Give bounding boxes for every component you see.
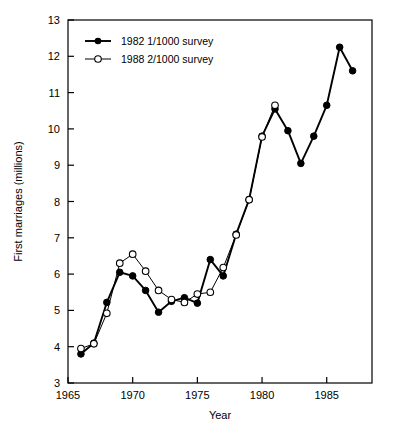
y-tick-label: 11 xyxy=(49,87,60,99)
data-point-open xyxy=(78,345,85,352)
data-point-filled xyxy=(298,160,305,167)
data-point-open xyxy=(246,196,253,203)
data-point-open xyxy=(272,102,279,109)
plot-frame xyxy=(68,20,372,383)
y-tick-label: 6 xyxy=(54,268,60,280)
data-point-filled xyxy=(155,309,162,316)
y-tick-label: 3 xyxy=(54,377,60,389)
data-point-filled xyxy=(142,287,149,294)
legend-label-1: 1982 1/1000 survey xyxy=(121,35,214,47)
x-axis-title: Year xyxy=(209,409,232,421)
data-point-filled xyxy=(207,256,214,263)
data-point-open xyxy=(116,260,123,267)
data-point-open xyxy=(259,134,266,141)
data-point-open xyxy=(220,264,227,271)
x-tick-label: 1985 xyxy=(314,389,338,401)
series-line-1 xyxy=(81,47,353,354)
y-tick-label: 5 xyxy=(54,304,60,316)
x-tick-label: 1965 xyxy=(56,389,80,401)
x-tick-label: 1980 xyxy=(250,389,274,401)
data-point-open xyxy=(168,296,175,303)
y-tick-label: 7 xyxy=(54,232,60,244)
data-point-filled xyxy=(220,273,227,280)
chart-figure: 34567891011121319651970197519801985YearF… xyxy=(0,0,406,441)
data-point-open xyxy=(233,232,240,239)
data-point-open xyxy=(207,289,214,296)
data-point-filled xyxy=(349,68,356,75)
data-point-open xyxy=(181,299,188,306)
first-marriages-line-chart: 34567891011121319651970197519801985YearF… xyxy=(0,0,406,441)
data-point-open xyxy=(129,251,136,258)
y-tick-label: 12 xyxy=(48,50,60,62)
legend-label-2: 1988 2/1000 survey xyxy=(121,53,214,65)
data-point-filled xyxy=(285,127,292,134)
data-point-open xyxy=(194,291,201,298)
y-tick-label: 13 xyxy=(48,14,60,26)
data-point-open xyxy=(91,340,98,347)
legend-open-circle-icon xyxy=(95,56,102,63)
y-tick-label: 4 xyxy=(54,341,60,353)
data-point-filled xyxy=(323,102,330,109)
data-point-open xyxy=(104,310,111,317)
y-tick-label: 10 xyxy=(48,123,60,135)
data-point-open xyxy=(155,287,162,294)
data-point-filled xyxy=(129,273,136,280)
y-tick-label: 8 xyxy=(54,196,60,208)
y-tick-label: 9 xyxy=(54,159,60,171)
x-tick-label: 1970 xyxy=(120,389,144,401)
legend-filled-circle-icon xyxy=(95,38,102,45)
y-axis-title: First marriages (millions) xyxy=(12,141,24,261)
x-tick-label: 1975 xyxy=(185,389,209,401)
data-point-filled xyxy=(194,300,201,307)
data-point-filled xyxy=(310,133,317,140)
data-point-open xyxy=(142,268,149,275)
data-point-filled xyxy=(336,44,343,51)
